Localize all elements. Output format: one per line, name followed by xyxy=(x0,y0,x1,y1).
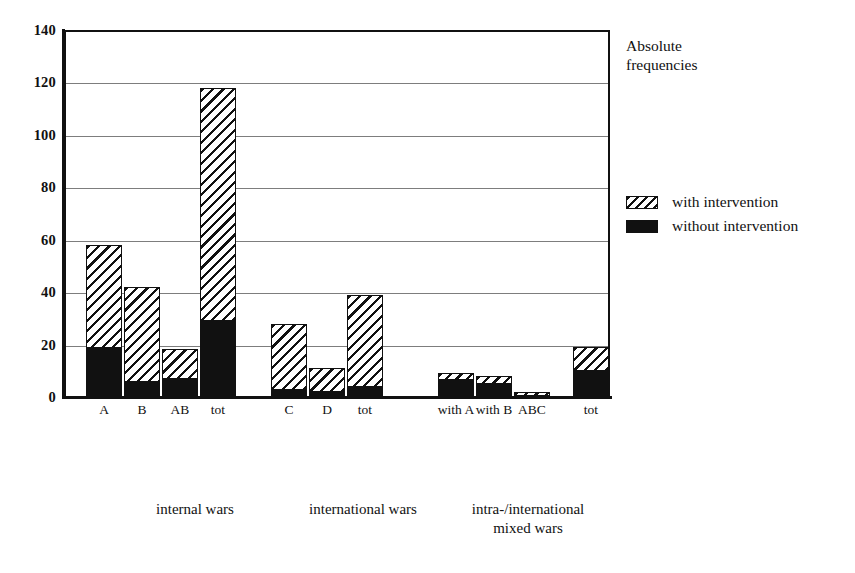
bar xyxy=(200,88,236,397)
legend-label-without-intervention: without intervention xyxy=(672,214,798,238)
bar-segment-without-intervention xyxy=(348,386,383,396)
bar xyxy=(271,324,307,397)
bar xyxy=(438,373,474,397)
x-axis-tick-label: tot xyxy=(188,402,248,417)
legend-item-with-intervention: with intervention xyxy=(626,190,798,214)
bar-segment-without-intervention xyxy=(574,370,609,396)
x-axis-tick-label: tot xyxy=(561,402,621,417)
legend-label-with-intervention: with intervention xyxy=(672,190,778,214)
bar-segment-without-intervention xyxy=(272,389,307,397)
hatched-swatch-icon xyxy=(626,196,658,209)
absolute-frequencies-note: Absolute frequencies xyxy=(626,36,697,74)
bar-segment-without-intervention xyxy=(163,378,198,396)
bar-segment-without-intervention xyxy=(125,381,160,397)
bar-segment-without-intervention xyxy=(87,347,122,397)
bar xyxy=(347,295,383,397)
chart-canvas: 020406080100120140 ABABtotCDtotwith Awit… xyxy=(0,0,855,573)
bar-segment-without-intervention xyxy=(515,395,550,396)
bar xyxy=(124,287,160,397)
bar xyxy=(514,392,550,397)
bar xyxy=(573,347,609,397)
bar xyxy=(309,368,345,397)
bar-segment-without-intervention xyxy=(201,320,236,396)
bar xyxy=(86,245,122,397)
legend-item-without-intervention: without intervention xyxy=(626,214,798,238)
legend: with intervention without intervention xyxy=(626,190,798,238)
bar-segment-without-intervention xyxy=(439,379,474,396)
x-axis-tick-label: ABC xyxy=(502,402,562,417)
bar xyxy=(476,376,512,397)
x-axis-tick-label: tot xyxy=(335,402,395,417)
bar-segment-without-intervention xyxy=(477,383,512,396)
solid-swatch-icon xyxy=(626,220,658,233)
bar-segment-without-intervention xyxy=(310,391,345,396)
bar-series-layer: ABABtotCDtotwith Awith BABCtot xyxy=(0,0,855,573)
bar xyxy=(162,349,198,397)
group-caption: intra-/international mixed wars xyxy=(428,500,628,538)
